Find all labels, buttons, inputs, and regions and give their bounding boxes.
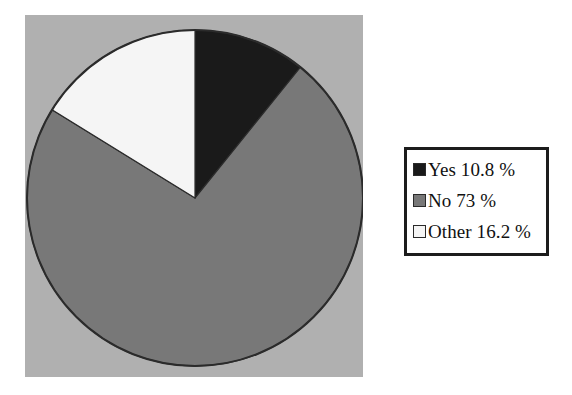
pie-slice-group [27,30,363,366]
legend-swatch-yes [413,163,426,176]
legend-label-yes: Yes 10.8 % [428,160,515,179]
legend-item-no[interactable]: No 73 % [413,185,546,216]
chart-plot-area [25,15,363,377]
legend-label-other: Other 16.2 % [428,222,531,241]
legend-label-no: No 73 % [428,191,496,210]
chart-legend: Yes 10.8 % No 73 % Other 16.2 % [404,147,549,256]
legend-swatch-no [413,194,426,207]
pie-chart [25,15,363,377]
legend-swatch-other [413,225,426,238]
legend-item-other[interactable]: Other 16.2 % [413,216,546,247]
legend-item-yes[interactable]: Yes 10.8 % [413,154,546,185]
